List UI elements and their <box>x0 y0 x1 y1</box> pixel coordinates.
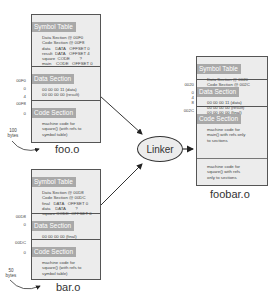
foobar-addr: 8 <box>172 100 194 105</box>
foobar-code-section: Code Section machine code formain() with… <box>197 107 267 185</box>
text: symbol table) <box>42 132 96 137</box>
foo-symbol-table: Symbol Table Data Section @ 00F0Code Sec… <box>32 15 100 67</box>
foobar-data-section: Data Section 00 00 00 11 (data)00 00 00 … <box>197 80 267 107</box>
foo-addr: 4 <box>4 94 26 99</box>
foo-addr: 0 <box>4 111 26 116</box>
bar-addr: 00DC <box>4 240 26 245</box>
foo-label: foo.o <box>55 143 79 155</box>
bar-size-arrow <box>10 280 40 289</box>
bar-code-section-title: Code Section <box>32 247 76 257</box>
foo-symbol-table-title: Symbol Table <box>32 22 76 32</box>
bar-symbol-table: Symbol Table Data Section @ 00D8Code Sec… <box>32 170 100 214</box>
text: only to sections <box>207 175 263 180</box>
foobar-addr: 0020 <box>172 82 194 87</box>
text: symbol table) <box>42 271 96 276</box>
bar-symbol-table-title: Symbol Table <box>32 177 76 187</box>
bar-label: bar.o <box>56 281 80 293</box>
foo-object-file: Symbol Table Data Section @ 00F0Code Sec… <box>31 14 101 143</box>
foobar-label: foobar.o <box>210 188 250 200</box>
linker-label: Linker <box>146 144 173 155</box>
foo-addr: 00F0 <box>4 78 26 83</box>
foobar-object-file: Symbol Table Data Section @ 0020Code Sec… <box>196 56 268 186</box>
foobar-data-section-title: Data Section <box>197 87 239 97</box>
bar-data-section-title: Data Section <box>32 221 74 231</box>
foobar-addr: 002C <box>172 108 194 113</box>
bar-addr: 0 <box>4 250 26 255</box>
foo-code-section-title: Code Section <box>32 108 76 118</box>
text: main CODE OFFSET 0 <box>42 61 96 66</box>
bar-object-file: Symbol Table Data Section @ 00D8Code Sec… <box>31 169 101 280</box>
bar-size: 50bytes <box>0 268 22 278</box>
bar-addr: 0 <box>4 222 26 227</box>
foo-size: 100bytes <box>2 128 24 138</box>
text: 00 00 00 00 (result) <box>42 92 96 97</box>
foobar-square-code: machine code forsquare() with refsonly t… <box>197 158 267 182</box>
bar-addr: 00D8 <box>4 214 26 219</box>
foobar-symbol-table-title: Symbol Table <box>197 64 241 74</box>
foo-data-section-title: Data Section <box>32 74 74 84</box>
text: to sections <box>207 138 263 143</box>
linker-node: Linker <box>137 136 183 162</box>
foo-data-section: Data Section 00 00 00 11 (data)00 00 00 … <box>32 67 100 101</box>
foobar-code-section-title: Code Section <box>197 114 241 124</box>
bar-code-section: Code Section machine code forsquare() (w… <box>32 240 100 281</box>
text: bytes <box>2 133 24 138</box>
text: bytes <box>0 273 22 278</box>
bar-data-section: Data Section 00 00 00 00 (final) <box>32 214 100 240</box>
bar-to-linker-arrow <box>100 164 142 206</box>
foo-addr: 0 <box>4 86 26 91</box>
foobar-main-code: machine code formain() with refs onlyto … <box>197 125 267 158</box>
foo-code-section: Code Section machine code forsquare() (w… <box>32 101 100 142</box>
foobar-symbol-table: Symbol Table Data Section @ 0020Code Sec… <box>197 57 267 80</box>
text: 00 00 00 00 (final) <box>42 234 96 239</box>
foo-addr: 00F8 <box>4 101 26 106</box>
foo-to-linker-arrow <box>100 96 142 134</box>
